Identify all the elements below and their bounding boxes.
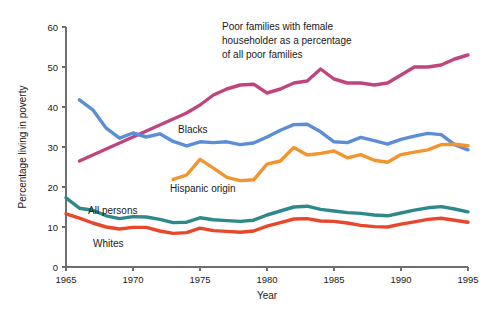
axes-group [66,27,468,267]
x-tick-label: 1990 [390,274,411,285]
annotation-line-2: householder as a percentage [222,35,352,46]
x-tick-label: 1975 [189,274,210,285]
chart-canvas: 0102030405060 19651970197519801985199019… [0,0,498,315]
series-label-all-persons: All persons [88,205,137,216]
y-tick-label: 0 [53,262,58,273]
series-label-whites: Whites [93,238,124,249]
y-tick-label: 60 [47,22,58,33]
y-tick-label: 10 [47,222,58,233]
y-tick-label: 20 [47,182,58,193]
series-line-female-householder-families [79,55,468,161]
x-tick-label: 1965 [55,274,76,285]
poverty-line-chart: 0102030405060 19651970197519801985199019… [0,0,498,315]
y-tick-label: 30 [47,142,58,153]
x-tick-label: 1985 [323,274,344,285]
female-householder-annotation: Poor families with female householder as… [222,21,352,60]
x-tick-label: 1970 [122,274,143,285]
y-axis-ticks: 0102030405060 [47,22,66,273]
y-tick-label: 40 [47,102,58,113]
series-label-blacks: Blacks [178,124,207,135]
x-axis-ticks: 1965197019751980198519901995 [55,267,478,285]
series-label-hispanic: Hispanic origin [170,183,236,194]
annotation-line-3: of all poor families [222,49,303,60]
x-tick-label: 1980 [256,274,277,285]
annotation-line-1: Poor families with female [222,21,334,32]
y-axis-title: Percentage living in poverty [17,86,28,209]
x-axis-title: Year [257,290,278,301]
x-tick-label: 1995 [457,274,478,285]
series-line-blacks [79,100,468,150]
series-line-hispanic-origin [173,144,468,180]
y-tick-label: 50 [47,62,58,73]
